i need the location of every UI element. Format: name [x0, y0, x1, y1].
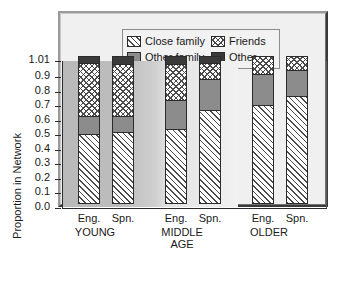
x-axis-bar-label: Eng.: [71, 213, 107, 224]
bar-segment-close-family: [113, 132, 133, 203]
stacked-bar: [165, 56, 187, 204]
y-axis-tick: [55, 77, 61, 78]
y-axis-tick: [55, 193, 61, 194]
stacked-bar: [112, 56, 134, 204]
y-axis-tick-label: 0.0: [0, 201, 50, 212]
y-axis-tick: [55, 164, 61, 165]
y-axis-tick-label: 0.6: [0, 114, 50, 125]
y-axis-tick: [55, 135, 61, 136]
y-axis-tick: [55, 92, 61, 93]
x-axis-bar-label: Spn.: [279, 213, 315, 224]
bar-segment-close-family: [253, 105, 273, 203]
y-axis-tick-label: 0.1: [0, 186, 50, 197]
y-axis-tick: [55, 179, 61, 180]
y-axis-tick: [55, 208, 61, 209]
bar-segment-other-family: [287, 70, 307, 96]
x-axis-group-label: YOUNG: [50, 226, 140, 238]
plot-right-edge: [326, 61, 327, 208]
x-axis-line: [62, 208, 327, 209]
x-axis-bar-label: Spn.: [192, 213, 228, 224]
plot-area: Eng.Spn.Eng.Spn.Eng.Spn.: [60, 13, 326, 205]
y-axis-tick-label: 0.7: [0, 99, 50, 110]
bar-segment-close-family: [287, 96, 307, 203]
x-axis-group-label: AGE: [137, 238, 227, 250]
bar-segment-friends: [287, 57, 307, 70]
y-axis-title: Proportion in Network: [12, 116, 23, 256]
bar-segment-other-family: [113, 116, 133, 132]
y-axis-tick-label: 0.8: [0, 85, 50, 96]
stacked-bar: [286, 56, 308, 204]
bar-segment-friends: [200, 63, 220, 79]
bar-segment-other: [166, 57, 186, 64]
bar-segment-close-family: [166, 129, 186, 203]
bar-segment-close-family: [79, 134, 99, 203]
stacked-bar: [252, 56, 274, 204]
y-axis-tick-label: 0.3: [0, 157, 50, 168]
bar-segment-friends: [253, 57, 273, 74]
bar-segment-other-family: [79, 116, 99, 133]
x-axis-bar-label: Eng.: [158, 213, 194, 224]
bar-segment-friends: [79, 63, 99, 116]
bar-segment-friends: [166, 64, 186, 100]
y-axis-tick-label: 0.4: [0, 143, 50, 154]
stacked-bar: [78, 56, 100, 204]
y-axis-line: [62, 61, 63, 208]
x-axis-group-label: MIDDLE: [137, 226, 227, 238]
bar-segment-other-family: [166, 100, 186, 129]
y-axis-tick: [55, 61, 61, 62]
y-axis-tick: [55, 150, 61, 151]
x-axis-group-label: OLDER: [224, 226, 314, 238]
bar-segment-close-family: [200, 110, 220, 203]
x-axis-bar-label: Spn.: [105, 213, 141, 224]
bar-segment-other: [113, 57, 133, 64]
y-axis-tick-label: 0.2: [0, 172, 50, 183]
y-axis-tick-label: 0.9: [0, 70, 50, 81]
y-axis-tick-label: 0.5: [0, 128, 50, 139]
x-axis-bar-label: Eng.: [245, 213, 281, 224]
bar-segment-other-family: [200, 79, 220, 111]
y-axis-tick: [55, 121, 61, 122]
y-axis-tick-label: 1.01: [0, 54, 50, 65]
y-axis-tick: [55, 106, 61, 107]
chart-panel: Close family Friends Other family Other: [58, 11, 328, 207]
bar-segment-friends: [113, 64, 133, 116]
stacked-bar: [199, 56, 221, 204]
bar-segment-other-family: [253, 74, 273, 104]
